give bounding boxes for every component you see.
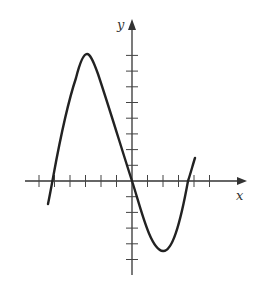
y-axis-label: y (116, 17, 125, 32)
x-arrow-icon (237, 177, 247, 185)
y-axis (128, 19, 136, 275)
function-curve (48, 54, 195, 251)
x-axis (25, 177, 247, 185)
x-axis-label: x (236, 188, 244, 203)
function-graph: y x (0, 0, 260, 288)
y-arrow-icon (128, 19, 136, 30)
